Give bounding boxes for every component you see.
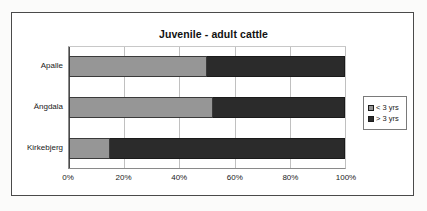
category-label-apalle: Apalle (41, 61, 63, 70)
bar-segment-high[interactable] (110, 138, 345, 159)
chart-title: Juvenile - adult cattle (12, 28, 415, 40)
gridline-100 (345, 47, 346, 168)
bar-segment-high[interactable] (213, 97, 345, 118)
category-label-angdala: Ängdala (34, 102, 63, 111)
legend-item-high[interactable]: > 3 yrs (368, 114, 403, 123)
legend-swatch-icon (368, 116, 374, 122)
tick-label-80: 80% (282, 173, 298, 182)
page-background: Juvenile - adult cattle Apalle Ängdala K… (0, 0, 427, 211)
bar-row (69, 97, 345, 118)
bar-row (69, 138, 345, 159)
chart-frame: Juvenile - adult cattle Apalle Ängdala K… (11, 12, 414, 196)
tick-label-20: 20% (116, 173, 132, 182)
bar-segment-high[interactable] (207, 56, 345, 77)
legend-label-low: < 3 yrs (376, 103, 399, 112)
tick-label-60: 60% (227, 173, 243, 182)
chart-legend: < 3 yrs > 3 yrs (363, 96, 407, 130)
tick-label-0: 0% (62, 173, 74, 182)
value-axis-tick-labels: 0% 20% 40% 60% 80% 100% (68, 173, 346, 187)
plot-area (68, 46, 346, 169)
tick-label-100: 100% (336, 173, 356, 182)
category-axis-labels: Apalle Ängdala Kirkebjerg (12, 46, 67, 169)
tick-label-40: 40% (171, 173, 187, 182)
category-label-kirkebjerg: Kirkebjerg (27, 143, 63, 152)
bar-row (69, 56, 345, 77)
bar-segment-low[interactable] (69, 97, 213, 118)
legend-swatch-icon (368, 105, 374, 111)
bar-series-group (69, 47, 345, 168)
legend-label-high: > 3 yrs (376, 114, 399, 123)
legend-item-low[interactable]: < 3 yrs (368, 103, 403, 112)
bar-segment-low[interactable] (69, 56, 207, 77)
bar-segment-low[interactable] (69, 138, 110, 159)
